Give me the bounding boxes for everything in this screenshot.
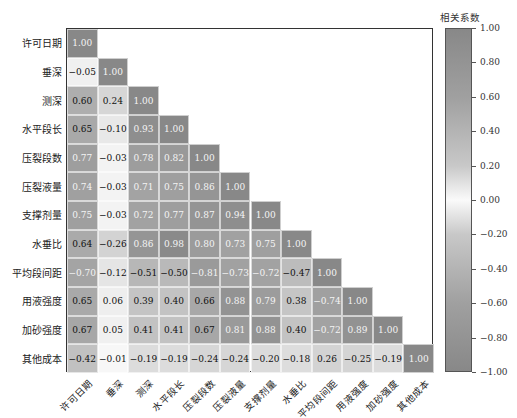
row-label: 用液强度 <box>22 293 62 308</box>
heatmap-cell: 0.65 <box>67 115 98 144</box>
heatmap-cell: −0.12 <box>98 258 129 287</box>
colorbar-tick-mark <box>472 97 476 98</box>
row-label: 平均段间距 <box>12 264 62 279</box>
heatmap-cell: −0.47 <box>281 258 312 287</box>
heatmap-cell: −0.19 <box>373 344 404 373</box>
heatmap-cell: 0.87 <box>189 201 220 230</box>
heatmap-cell: 1.00 <box>403 344 434 373</box>
colorbar-tick-mark <box>472 234 476 235</box>
colorbar-tick-label: 0.00 <box>480 195 500 205</box>
colorbar-tick-label: 0.60 <box>480 92 500 102</box>
row-label: 垂深 <box>42 64 62 79</box>
row-label: 压裂段数 <box>22 150 62 165</box>
heatmap-cell: 0.71 <box>128 172 159 201</box>
column-label: 支撑剂量 <box>241 376 279 414</box>
heatmap-cell: 0.60 <box>67 86 98 115</box>
colorbar-tick-mark <box>472 166 476 167</box>
heatmap-cell: 0.26 <box>312 344 343 373</box>
heatmap-cell: 0.88 <box>251 316 282 345</box>
colorbar-tick-label: −1.00 <box>480 367 508 377</box>
column-label: 用液强度 <box>332 376 370 414</box>
heatmap-cell: 0.38 <box>281 287 312 316</box>
heatmap-cell: 1.00 <box>189 144 220 173</box>
heatmap-cell: −0.03 <box>98 144 129 173</box>
heatmap-cell: −0.03 <box>98 201 129 230</box>
colorbar-tick-mark <box>472 131 476 132</box>
heatmap-cell: −0.72 <box>251 258 282 287</box>
heatmap-cell: 1.00 <box>251 201 282 230</box>
heatmap-cell: 0.89 <box>342 316 373 345</box>
heatmap-cell: 1.00 <box>220 172 251 201</box>
heatmap-cell: 0.82 <box>159 144 190 173</box>
colorbar-tick-mark <box>472 372 476 373</box>
heatmap-cell: 1.00 <box>98 58 129 87</box>
heatmap-cell: −0.03 <box>98 172 129 201</box>
heatmap-cell: −0.70 <box>67 258 98 287</box>
heatmap-cell: 0.86 <box>128 230 159 259</box>
colorbar-tick-mark <box>472 28 476 29</box>
heatmap-cell: 0.74 <box>67 172 98 201</box>
heatmap-cell: 0.79 <box>251 287 282 316</box>
column-label: 垂深 <box>102 376 126 400</box>
heatmap-cell: 0.81 <box>220 316 251 345</box>
colorbar-tick-mark <box>472 338 476 339</box>
heatmap-cell: 0.98 <box>159 230 190 259</box>
colorbar-tick-mark <box>472 62 476 63</box>
heatmap-cell: 0.41 <box>128 316 159 345</box>
row-label: 许可日期 <box>22 35 62 50</box>
colorbar-tick-label: 1.00 <box>480 23 500 33</box>
heatmap-cell: 0.75 <box>67 201 98 230</box>
heatmap-cell: 0.78 <box>128 144 159 173</box>
colorbar-tick-label: 0.40 <box>480 126 500 136</box>
heatmap-cell: −0.01 <box>98 344 129 373</box>
heatmap-cell: −0.73 <box>220 258 251 287</box>
colorbar-tick-label: −0.60 <box>480 298 508 308</box>
heatmap-cell: 1.00 <box>342 287 373 316</box>
heatmap-cell: 0.67 <box>189 316 220 345</box>
heatmap-cell: 1.00 <box>281 230 312 259</box>
heatmap-cell: −0.05 <box>67 58 98 87</box>
heatmap-cell: 1.00 <box>159 115 190 144</box>
heatmap-cell: 0.88 <box>220 287 251 316</box>
colorbar-tick-label: −0.20 <box>480 229 508 239</box>
colorbar-tick-label: 0.80 <box>480 57 500 67</box>
heatmap-cell: 0.73 <box>220 230 251 259</box>
row-label: 其他成本 <box>22 350 62 365</box>
row-label: 压裂液量 <box>22 178 62 193</box>
heatmap-cell: 0.77 <box>159 201 190 230</box>
heatmap-cell: 0.40 <box>281 316 312 345</box>
heatmap-cell: 1.00 <box>67 29 98 58</box>
column-label: 压裂液量 <box>210 376 248 414</box>
heatmap-cell: −0.24 <box>189 344 220 373</box>
colorbar-tick-label: −0.80 <box>480 333 508 343</box>
heatmap-cell: −0.42 <box>67 344 98 373</box>
heatmap-cell: 0.75 <box>159 172 190 201</box>
heatmap-cell: −0.19 <box>128 344 159 373</box>
heatmap-cell: −0.10 <box>98 115 129 144</box>
heatmap-cell: 0.67 <box>67 316 98 345</box>
column-label: 测深 <box>132 376 156 400</box>
row-label: 支撑剂量 <box>22 207 62 222</box>
heatmap-cell: −0.51 <box>128 258 159 287</box>
colorbar-title: 相关系数 <box>440 10 480 24</box>
heatmap-cell: 0.40 <box>159 287 190 316</box>
column-label: 压裂段数 <box>179 376 217 414</box>
heatmap-cell: 0.65 <box>67 287 98 316</box>
colorbar-tick-mark <box>472 200 476 201</box>
heatmap-cell: −0.72 <box>312 316 343 345</box>
heatmap-cell: 0.93 <box>128 115 159 144</box>
heatmap-cell: 0.72 <box>128 201 159 230</box>
heatmap-cell: −0.19 <box>159 344 190 373</box>
heatmap-cell: 0.41 <box>159 316 190 345</box>
heatmap-cell: 0.66 <box>189 287 220 316</box>
heatmap-cell: −0.18 <box>281 344 312 373</box>
row-label: 加砂强度 <box>22 322 62 337</box>
column-label: 加砂强度 <box>363 376 401 414</box>
heatmap-cell: 0.86 <box>189 172 220 201</box>
heatmap-cell: −0.50 <box>159 258 190 287</box>
column-label: 许可日期 <box>57 376 95 414</box>
heatmap-cell: 1.00 <box>373 316 404 345</box>
heatmap-cell: 0.94 <box>220 201 251 230</box>
heatmap-cell: −0.20 <box>251 344 282 373</box>
colorbar-tick-mark <box>472 303 476 304</box>
